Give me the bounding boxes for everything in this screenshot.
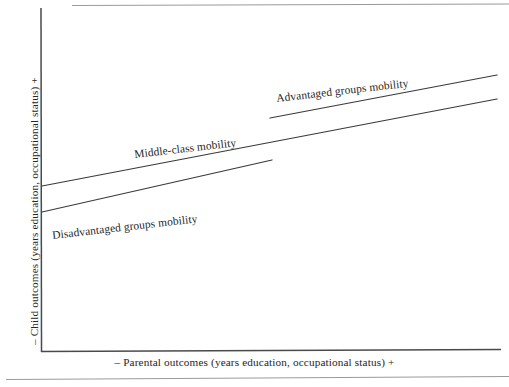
chart-canvas xyxy=(0,0,509,387)
x-axis-line xyxy=(41,350,501,352)
mobility-figure: Advantaged groups mobility Middle-class … xyxy=(0,0,509,387)
page-rule-top xyxy=(72,4,509,6)
y-axis-line xyxy=(41,8,42,352)
series-line-middle-class xyxy=(42,99,497,186)
y-axis-label: – Child outcomes (years education, occup… xyxy=(28,77,40,345)
series-line-disadvantaged xyxy=(42,160,272,212)
page-rule-bottom xyxy=(6,377,509,380)
x-axis-label: – Parental outcomes (years education, oc… xyxy=(0,356,509,368)
